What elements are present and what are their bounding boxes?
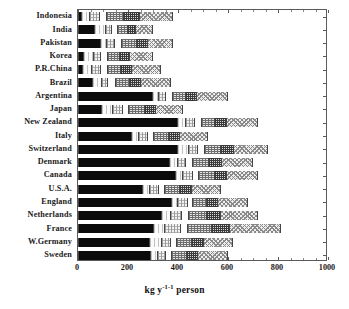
bar-row xyxy=(78,105,328,114)
bar-segment xyxy=(207,198,218,207)
bar-segment xyxy=(78,251,151,260)
bar-segment xyxy=(158,251,166,260)
x-tick-label: 400 xyxy=(171,263,183,272)
bar-segment xyxy=(154,224,165,233)
bar-segment xyxy=(192,238,204,247)
bar-segment xyxy=(78,25,95,34)
bar-row xyxy=(78,65,328,74)
bar-segment xyxy=(165,185,181,194)
bar-segment xyxy=(107,12,124,21)
bar-row xyxy=(78,52,328,61)
x-tick-major xyxy=(328,257,329,260)
bar-segment xyxy=(84,52,95,61)
category-label: England xyxy=(0,197,72,206)
bar-segment xyxy=(92,65,101,74)
bar-segment xyxy=(234,145,268,154)
bar-segment xyxy=(173,92,186,101)
bar-segment xyxy=(78,211,162,220)
bar-segment xyxy=(150,185,159,194)
bar-segment xyxy=(108,52,120,61)
bar-segment xyxy=(209,158,222,167)
bar-segment xyxy=(122,39,138,48)
category-label: Italy xyxy=(0,131,72,140)
category-label: U.S.A. xyxy=(0,184,72,193)
chart-figure: IndonesiaIndiaPakistanKoreaP.R.ChinaBraz… xyxy=(0,0,349,309)
bar-segment xyxy=(143,185,150,194)
bar-row xyxy=(78,198,328,207)
x-tick-label: 200 xyxy=(121,263,133,272)
category-label: P.R.China xyxy=(0,64,72,73)
bar-segment xyxy=(136,25,153,34)
bar-segment xyxy=(78,158,170,167)
bar-segment xyxy=(197,92,228,101)
bar-segment xyxy=(78,198,172,207)
bar-segment xyxy=(218,198,248,207)
bar-segment xyxy=(154,132,169,141)
category-label: India xyxy=(0,25,72,34)
bar-segment xyxy=(82,12,91,21)
bar-segment xyxy=(162,211,171,220)
bar-segment xyxy=(198,251,228,260)
x-tick-major xyxy=(328,10,329,13)
bar-segment xyxy=(141,78,171,87)
bar-segment xyxy=(129,105,145,114)
bar-segment xyxy=(78,238,150,247)
bar-segment xyxy=(193,158,210,167)
category-label-column: IndonesiaIndiaPakistanKoreaP.R.ChinaBraz… xyxy=(0,9,72,261)
bar-row xyxy=(78,78,328,87)
bar-segment xyxy=(193,198,207,207)
category-label: Argentina xyxy=(0,91,72,100)
bar-segment xyxy=(128,25,137,34)
bar-segment xyxy=(202,118,216,127)
bar-segment xyxy=(121,65,132,74)
bar-segment xyxy=(171,211,182,220)
bar-segment xyxy=(107,39,115,48)
x-tick-label: 1000 xyxy=(319,263,335,272)
bar-segment xyxy=(177,238,193,247)
bar-segment xyxy=(189,145,198,154)
bar-segment xyxy=(198,145,205,154)
bar-segment xyxy=(139,132,148,141)
bar-segment xyxy=(150,238,162,247)
bar-segment xyxy=(137,39,148,48)
bar-segment xyxy=(145,105,156,114)
bar-row xyxy=(78,25,328,34)
bar-row xyxy=(78,12,328,21)
category-label: Netherlands xyxy=(0,210,72,219)
bar-segment xyxy=(78,132,132,141)
bar-row xyxy=(78,171,328,180)
bar-segment xyxy=(215,171,227,180)
bar-segment xyxy=(192,185,221,194)
category-label: W.Germany xyxy=(0,237,72,246)
bar-segment xyxy=(170,158,179,167)
bar-row xyxy=(78,185,328,194)
bar-segment xyxy=(100,12,108,21)
bar-segment xyxy=(78,118,178,127)
category-label: Sweden xyxy=(0,250,72,259)
bar-segment xyxy=(221,145,234,154)
bar-segment xyxy=(120,52,130,61)
bar-segment xyxy=(178,198,188,207)
bar-segment xyxy=(186,118,195,127)
bar-segment xyxy=(101,65,109,74)
category-label: France xyxy=(0,224,72,233)
bar-segment xyxy=(187,251,198,260)
bar-row xyxy=(78,39,328,48)
bar-row xyxy=(78,224,328,233)
bar-segment xyxy=(115,39,122,48)
category-label: Indonesia xyxy=(0,11,72,20)
bar-segment xyxy=(108,78,116,87)
bar-segment xyxy=(183,171,193,180)
bar-row xyxy=(78,158,328,167)
category-label: Brazil xyxy=(0,78,72,87)
bar-segment xyxy=(102,105,113,114)
bar-segment xyxy=(108,65,121,74)
bar-segment xyxy=(215,118,227,127)
bar-row xyxy=(78,92,328,101)
bar-segment xyxy=(78,224,154,233)
category-label: Korea xyxy=(0,51,72,60)
bar-segment xyxy=(78,171,176,180)
bar-segment xyxy=(93,78,102,87)
bar-segment xyxy=(205,145,221,154)
bar-segment xyxy=(124,12,140,21)
